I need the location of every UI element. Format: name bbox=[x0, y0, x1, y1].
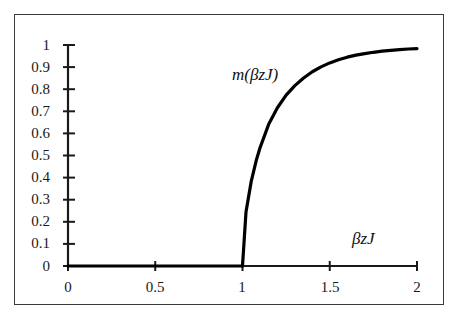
y-tick-label: 0 bbox=[6, 259, 50, 274]
chart-plot bbox=[0, 0, 460, 322]
x-tick-label: 2 bbox=[397, 280, 437, 295]
y-tick-label: 0.1 bbox=[6, 236, 50, 251]
y-tick-label: 0.8 bbox=[6, 82, 50, 97]
y-tick-label: 0.3 bbox=[6, 192, 50, 207]
x-tick-label: 1.5 bbox=[310, 280, 350, 295]
y-tick-label: 0.2 bbox=[6, 214, 50, 229]
y-tick-label: 0.9 bbox=[6, 60, 50, 75]
x-tick-label: 0.5 bbox=[135, 280, 175, 295]
figure-container: 1 0.9 0.8 0.7 0.6 0.5 0.4 0.3 0.2 0.1 0 … bbox=[0, 0, 460, 322]
x-tick-label: 1 bbox=[222, 280, 262, 295]
y-tick-label: 0.6 bbox=[6, 126, 50, 141]
y-tick-label: 0.7 bbox=[6, 104, 50, 119]
x-tick-label: 0 bbox=[48, 280, 88, 295]
y-tick-label: 1 bbox=[6, 38, 50, 53]
y-tick-label: 0.4 bbox=[6, 170, 50, 185]
curve-label: m(βzJ) bbox=[232, 66, 278, 83]
y-tick-label: 0.5 bbox=[6, 148, 50, 163]
x-axis-label: βzJ bbox=[352, 230, 375, 247]
